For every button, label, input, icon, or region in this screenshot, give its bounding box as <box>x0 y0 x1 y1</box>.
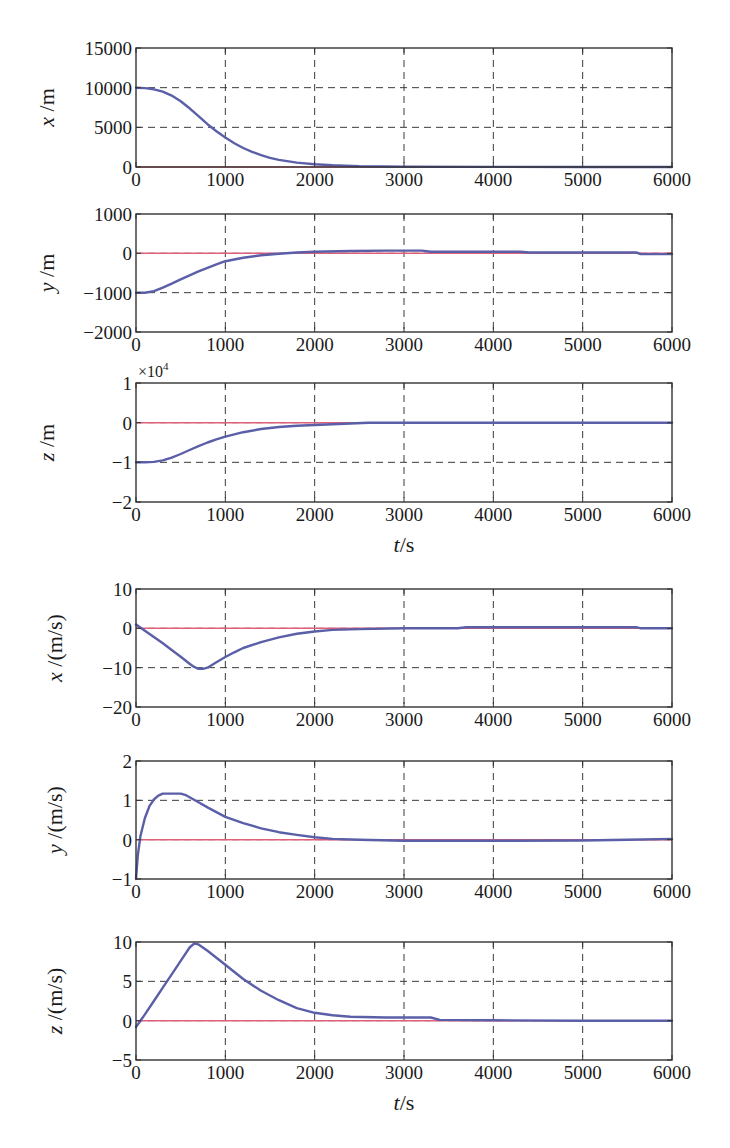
x-tick-label: 4000 <box>474 881 512 902</box>
x-tick-label: 6000 <box>653 504 691 525</box>
y-tick-label: 2 <box>123 751 133 772</box>
x-tick-label: 1000 <box>206 504 244 525</box>
subplot-4: 0100020003000400050006000−20−10010x /(m/… <box>42 579 691 730</box>
y-tick-label: 5 <box>123 971 133 992</box>
y-tick-label: 0 <box>123 413 133 434</box>
y-tick-label: 0 <box>123 830 133 851</box>
x-tick-label: 0 <box>131 334 141 355</box>
x-tick-label: 3000 <box>385 709 423 730</box>
x-tick-label: 5000 <box>564 169 602 190</box>
y-tick-label: 10 <box>113 932 132 953</box>
y-tick-label: −2 <box>112 492 132 513</box>
x-tick-label: 2000 <box>296 169 334 190</box>
x-tick-label: 5000 <box>564 504 602 525</box>
x-tick-label: 3000 <box>385 1062 423 1083</box>
x-tick-label: 0 <box>131 169 141 190</box>
x-tick-label: 3000 <box>385 334 423 355</box>
x-tick-label: 4000 <box>474 709 512 730</box>
x-tick-label: 2000 <box>296 881 334 902</box>
subplot-5: 0100020003000400050006000−1012y /(m/s) <box>42 751 691 902</box>
x-tick-label: 6000 <box>653 881 691 902</box>
x-tick-label: 6000 <box>653 1062 691 1083</box>
y-tick-label: 0 <box>123 243 133 264</box>
x-tick-label: 4000 <box>474 1062 512 1083</box>
y-tick-label: 1 <box>123 373 133 394</box>
y-tick-label: −1 <box>112 869 132 890</box>
y-exponent-label: ×104 <box>138 360 169 380</box>
y-tick-label: 10 <box>113 579 132 600</box>
x-tick-label: 4000 <box>474 504 512 525</box>
x-tick-label: 2000 <box>296 504 334 525</box>
y-tick-label: 1000 <box>94 204 132 225</box>
subplot-3: 0100020003000400050006000−2−101×104z /mt… <box>34 360 691 557</box>
x-tick-label: 2000 <box>296 334 334 355</box>
x-tick-label: 1000 <box>206 709 244 730</box>
x-tick-label: 0 <box>131 881 141 902</box>
x-tick-label: 3000 <box>385 504 423 525</box>
x-tick-label: 2000 <box>296 709 334 730</box>
x-tick-label: 5000 <box>564 881 602 902</box>
figure-canvas: 0100020003000400050006000050001000015000… <box>0 0 730 1148</box>
y-tick-label: 1 <box>123 790 133 811</box>
x-tick-label: 6000 <box>653 334 691 355</box>
x-tick-label: 5000 <box>564 334 602 355</box>
y-tick-label: 0 <box>123 157 133 178</box>
y-tick-label: −5 <box>112 1050 132 1071</box>
x-axis-label: t/s <box>394 532 415 557</box>
x-tick-label: 2000 <box>296 1062 334 1083</box>
x-tick-label: 1000 <box>206 881 244 902</box>
y-tick-label: −2000 <box>83 322 132 343</box>
x-tick-label: 1000 <box>206 169 244 190</box>
x-tick-label: 4000 <box>474 169 512 190</box>
y-tick-label: 15000 <box>85 38 133 59</box>
x-tick-label: 1000 <box>206 1062 244 1083</box>
y-tick-label: −1000 <box>83 283 132 304</box>
y-axis-label: z /m <box>34 424 59 462</box>
y-axis-label: z /(m/s) <box>42 968 67 1036</box>
y-axis-label: y /(m/s) <box>42 786 67 856</box>
subplot-6: 0100020003000400050006000−50510z /(m/s)t… <box>42 932 691 1115</box>
grid-lines <box>136 48 672 167</box>
x-tick-label: 0 <box>131 709 141 730</box>
x-axis-label: t/s <box>394 1090 415 1115</box>
grid-lines <box>136 383 672 502</box>
y-tick-label: 5000 <box>94 117 132 138</box>
trajectory-figure: 0100020003000400050006000050001000015000… <box>0 0 730 1148</box>
y-tick-label: 10000 <box>85 78 133 99</box>
y-axis-label: x /m <box>34 88 59 128</box>
subplot-2: 0100020003000400050006000−2000−100001000… <box>34 204 691 355</box>
subplot-1: 0100020003000400050006000050001000015000… <box>34 38 691 190</box>
y-tick-label: 0 <box>123 1011 133 1032</box>
grid-lines <box>136 589 672 707</box>
grid-lines <box>136 214 672 332</box>
x-tick-label: 3000 <box>385 881 423 902</box>
x-tick-label: 6000 <box>653 169 691 190</box>
y-axis-label: x /(m/s) <box>42 614 67 683</box>
y-tick-label: 0 <box>123 618 133 639</box>
x-tick-label: 4000 <box>474 334 512 355</box>
x-tick-label: 0 <box>131 1062 141 1083</box>
x-tick-label: 0 <box>131 504 141 525</box>
y-axis-label: y /m <box>34 254 59 295</box>
x-tick-label: 1000 <box>206 334 244 355</box>
x-tick-label: 6000 <box>653 709 691 730</box>
grid-lines <box>136 761 672 879</box>
y-tick-label: −1 <box>112 452 132 473</box>
x-tick-label: 3000 <box>385 169 423 190</box>
y-tick-label: −20 <box>102 697 132 718</box>
x-tick-label: 5000 <box>564 1062 602 1083</box>
x-tick-label: 5000 <box>564 709 602 730</box>
grid-lines <box>136 942 672 1060</box>
y-tick-label: −10 <box>102 658 132 679</box>
